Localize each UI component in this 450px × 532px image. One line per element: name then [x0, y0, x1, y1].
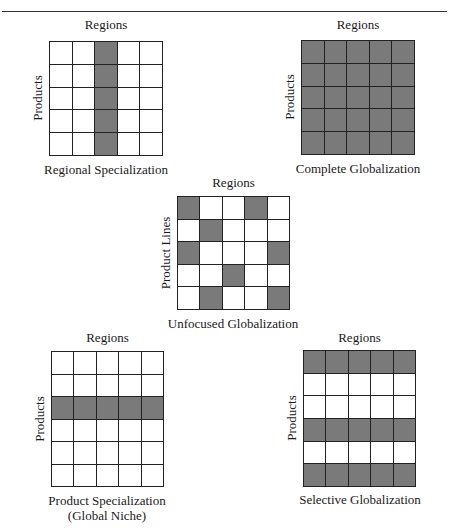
filled-cell [268, 287, 289, 309]
filled-cell [178, 197, 199, 219]
filled-cell [394, 351, 415, 373]
empty-cell [371, 442, 392, 464]
panel-title: Regional Specialization [20, 162, 192, 177]
empty-cell [394, 374, 415, 396]
regions-axis-label: Regions [303, 330, 416, 346]
filled-cell [304, 419, 325, 441]
empty-cell [140, 110, 162, 132]
filled-cell [325, 87, 347, 109]
empty-cell [140, 65, 162, 87]
regions-axis-label: Regions [301, 17, 415, 33]
panel-subtitle: (Global Niche) [17, 508, 197, 523]
regions-axis-label: Regions [49, 17, 163, 33]
filled-cell [223, 265, 244, 287]
empty-cell [97, 465, 118, 487]
products-axis-label: Products [284, 395, 300, 441]
empty-cell [119, 442, 140, 464]
filled-cell [392, 87, 414, 109]
empty-cell [118, 65, 140, 87]
empty-cell [52, 352, 73, 374]
empty-cell [52, 465, 73, 487]
filled-cell [95, 88, 117, 110]
filled-cell [347, 87, 369, 109]
empty-cell [119, 352, 140, 374]
filled-cell [370, 109, 392, 131]
empty-cell [50, 133, 72, 155]
top-divider-line [2, 11, 447, 12]
empty-cell [74, 465, 95, 487]
empty-cell [349, 374, 370, 396]
filled-cell [349, 464, 370, 486]
filled-cell [347, 41, 369, 63]
empty-cell [119, 420, 140, 442]
empty-cell [97, 442, 118, 464]
empty-cell [52, 375, 73, 397]
filled-cell [370, 41, 392, 63]
empty-cell [140, 88, 162, 110]
empty-cell [326, 396, 347, 418]
filled-cell [349, 419, 370, 441]
filled-cell [200, 220, 221, 242]
empty-cell [118, 110, 140, 132]
empty-cell [52, 420, 73, 442]
empty-cell [97, 375, 118, 397]
filled-cell [178, 242, 199, 264]
filled-cell [200, 287, 221, 309]
filled-cell [245, 197, 266, 219]
empty-cell [140, 42, 162, 64]
empty-cell [223, 287, 244, 309]
filled-cell [370, 64, 392, 86]
empty-cell [119, 465, 140, 487]
empty-cell [74, 375, 95, 397]
panel-title: Unfocused Globalization [143, 316, 323, 331]
filled-cell [325, 109, 347, 131]
filled-cell [304, 464, 325, 486]
filled-cell [325, 132, 347, 154]
filled-cell [394, 419, 415, 441]
matrix-grid [177, 196, 290, 310]
empty-cell [245, 265, 266, 287]
filled-cell [370, 132, 392, 154]
empty-cell [200, 265, 221, 287]
empty-cell [73, 110, 95, 132]
empty-cell [119, 375, 140, 397]
empty-cell [142, 420, 163, 442]
matrix-grid [51, 351, 164, 487]
empty-cell [50, 65, 72, 87]
empty-cell [50, 88, 72, 110]
filled-cell [302, 132, 324, 154]
filled-cell [302, 64, 324, 86]
empty-cell [142, 465, 163, 487]
filled-cell [392, 132, 414, 154]
empty-cell [118, 133, 140, 155]
empty-cell [52, 442, 73, 464]
products-axis-label: Products [32, 396, 48, 442]
filled-cell [392, 64, 414, 86]
filled-cell [302, 87, 324, 109]
panel-title: Product Specialization [17, 493, 197, 508]
empty-cell [97, 352, 118, 374]
empty-cell [371, 374, 392, 396]
empty-cell [268, 265, 289, 287]
filled-cell [371, 419, 392, 441]
filled-cell [347, 64, 369, 86]
empty-cell [142, 352, 163, 374]
empty-cell [223, 242, 244, 264]
empty-cell [178, 287, 199, 309]
empty-cell [178, 265, 199, 287]
filled-cell [392, 109, 414, 131]
empty-cell [140, 133, 162, 155]
filled-cell [371, 351, 392, 373]
empty-cell [200, 242, 221, 264]
empty-cell [304, 374, 325, 396]
filled-cell [371, 464, 392, 486]
filled-cell [268, 242, 289, 264]
matrix-grid [49, 41, 163, 156]
empty-cell [50, 42, 72, 64]
panel-title: Selective Globalization [270, 492, 450, 507]
filled-cell [302, 109, 324, 131]
empty-cell [97, 420, 118, 442]
empty-cell [349, 396, 370, 418]
empty-cell [73, 42, 95, 64]
filled-cell [95, 65, 117, 87]
